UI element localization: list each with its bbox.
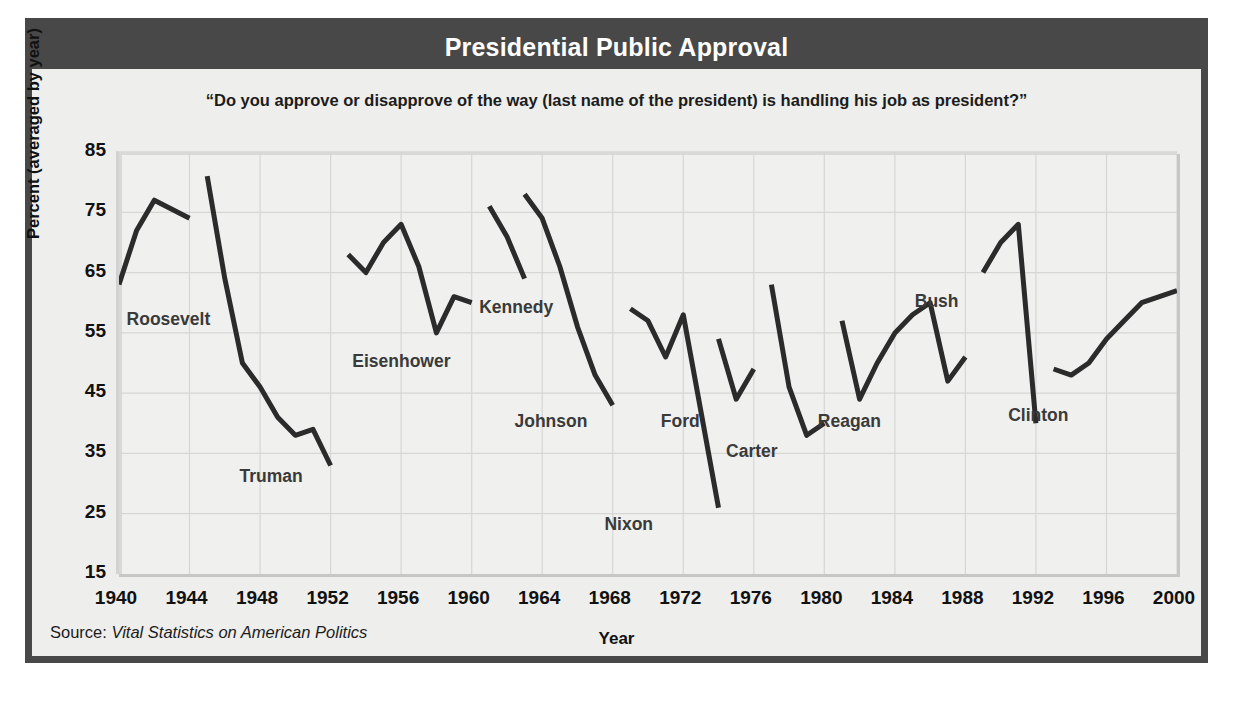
- x-tick-label: 1948: [222, 587, 292, 609]
- y-tick-label: 75: [64, 199, 106, 221]
- series-label-truman: Truman: [239, 466, 302, 487]
- series-line-carter: [771, 285, 824, 436]
- x-tick-label: 1972: [645, 587, 715, 609]
- series-label-bush: Bush: [915, 291, 959, 312]
- x-tick-label: 1960: [434, 587, 504, 609]
- x-tick-label: 1984: [857, 587, 927, 609]
- series-line-ford: [719, 339, 754, 399]
- plot-svg: [119, 152, 1177, 574]
- source-prefix: Source:: [50, 623, 111, 641]
- chart-title-bar: Presidential Public Approval: [32, 25, 1201, 69]
- y-tick-label: 25: [64, 501, 106, 523]
- series-label-eisenhower: Eisenhower: [352, 351, 450, 372]
- y-tick-label: 65: [64, 260, 106, 282]
- series-label-ford: Ford: [661, 411, 700, 432]
- chart-body: “Do you approve or disapprove of the way…: [32, 69, 1201, 656]
- x-tick-label: 1988: [927, 587, 997, 609]
- chart-subtitle: “Do you approve or disapprove of the way…: [32, 91, 1201, 110]
- y-tick-label: 45: [64, 380, 106, 402]
- series-label-nixon: Nixon: [604, 514, 653, 535]
- series-label-johnson: Johnson: [515, 411, 588, 432]
- x-tick-label: 1980: [786, 587, 856, 609]
- page-title: Presidential Public Approval: [445, 33, 789, 62]
- y-axis-title: Percent (averaged by year): [24, 28, 43, 239]
- gridlines: [119, 152, 1177, 574]
- x-tick-label: 1992: [998, 587, 1068, 609]
- series-line-reagan: [842, 303, 965, 400]
- x-tick-label: 2000: [1139, 587, 1209, 609]
- series-label-kennedy: Kennedy: [479, 297, 553, 318]
- y-tick-label: 85: [64, 139, 106, 161]
- series-line-nixon: [630, 309, 718, 508]
- plot-area: [116, 151, 1177, 574]
- x-tick-label: 1944: [152, 587, 222, 609]
- series-label-roosevelt: Roosevelt: [127, 309, 211, 330]
- x-tick-label: 1952: [293, 587, 363, 609]
- series-line-kennedy: [489, 206, 524, 278]
- y-tick-label: 15: [64, 561, 106, 583]
- y-tick-label: 35: [64, 440, 106, 462]
- x-tick-label: 1940: [81, 587, 151, 609]
- x-tick-label: 1964: [504, 587, 574, 609]
- x-tick-label: 1968: [575, 587, 645, 609]
- x-tick-label: 1996: [1068, 587, 1138, 609]
- series-label-clinton: Clinton: [1008, 405, 1068, 426]
- series-line-eisenhower: [348, 224, 472, 333]
- y-tick-label: 55: [64, 320, 106, 342]
- x-tick-label: 1956: [363, 587, 433, 609]
- source-title: Vital Statistics on American Politics: [111, 623, 367, 641]
- series-lines: [119, 176, 1177, 508]
- x-tick-label: 1976: [716, 587, 786, 609]
- figure-panel: Presidential Public Approval “Do you app…: [25, 18, 1208, 663]
- series-label-reagan: Reagan: [818, 411, 881, 432]
- series-line-truman: [207, 176, 330, 465]
- series-label-carter: Carter: [726, 441, 778, 462]
- source-note: Source: Vital Statistics on American Pol…: [50, 623, 367, 642]
